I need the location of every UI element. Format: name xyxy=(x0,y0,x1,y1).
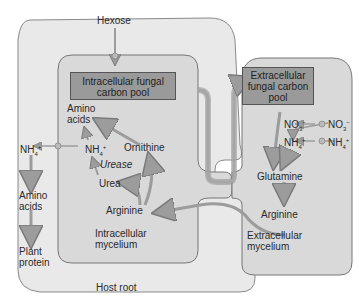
urease-label: Urease xyxy=(100,159,132,170)
amino-acids-intra-label: Amino acids xyxy=(67,103,95,125)
nh4-extra-outer-label: NH4+ xyxy=(328,135,349,153)
no3-outer-text: NO xyxy=(328,119,343,130)
extracellular-mycelium-label: Extracellular mycelium xyxy=(247,230,302,252)
intracellular-carbon-pool-box: Intracellular fungal carbon pool xyxy=(70,72,176,100)
extracellular-pool-line2: fungal carbon xyxy=(243,81,313,92)
no3-sup: − xyxy=(302,119,306,125)
intracellular-pool-line1: Intracellular fungal xyxy=(71,76,175,87)
intracellular-mycelium-label: Intracellular mycelium xyxy=(95,228,147,250)
nh4-host-label: NH4+ xyxy=(20,142,41,160)
plant-protein-line2: protein xyxy=(19,257,50,268)
amino-acids-host-label: Amino acids xyxy=(19,190,47,212)
nh4-sub: 4 xyxy=(342,144,345,150)
extracellular-mycelium-line1: Extracellular xyxy=(247,230,302,241)
glutamine-label: Glutamine xyxy=(257,171,303,182)
amino-acids-host-line1: Amino xyxy=(19,190,47,201)
no3-sup: − xyxy=(346,119,350,125)
amino-acids-intra-line1: Amino xyxy=(67,103,95,114)
no3-inner-label: NO3− xyxy=(284,117,306,135)
nh4-host-text: NH xyxy=(20,144,34,155)
nh4-sub: 4 xyxy=(298,144,301,150)
intracellular-pool-line2: carbon pool xyxy=(71,87,175,98)
amino-acids-intra-line2: acids xyxy=(67,114,95,125)
no3-sub: 3 xyxy=(343,126,346,132)
arginine-extra-label: Arginine xyxy=(261,209,298,220)
intracellular-mycelium-line2: mycelium xyxy=(95,239,147,250)
nh4-sub: 4 xyxy=(99,151,102,157)
ornithine-label: Ornithine xyxy=(124,142,165,153)
amino-acids-host-line2: acids xyxy=(19,201,47,212)
extracellular-pool-line1: Extracellular xyxy=(243,70,313,81)
nh4-sub: 4 xyxy=(34,151,37,157)
no3-sub: 3 xyxy=(299,126,302,132)
urea-label: Urea xyxy=(99,178,121,189)
nh4-extra-outer-text: NH xyxy=(328,137,342,148)
plant-protein-line1: Plant xyxy=(19,246,50,257)
host-root-label: Host root xyxy=(96,282,137,293)
no3-outer-label: NO3− xyxy=(328,117,350,135)
plant-protein-label: Plant protein xyxy=(19,246,50,268)
no3-inner-text: NO xyxy=(284,119,299,130)
extracellular-carbon-pool-box: Extracellular fungal carbon pool xyxy=(242,67,314,105)
nh4-sup: + xyxy=(38,144,42,150)
nh4-intra-label: NH4+ xyxy=(85,142,106,160)
hexose-label: Hexose xyxy=(97,15,131,26)
nh4-intra-text: NH xyxy=(85,144,99,155)
nh4-sup: + xyxy=(302,137,306,143)
nh4-sup: + xyxy=(346,137,350,143)
extracellular-mycelium-line2: mycelium xyxy=(247,241,302,252)
nh4-extra-inner-text: NH xyxy=(284,137,298,148)
diagram-canvas xyxy=(0,0,359,308)
intracellular-mycelium-line1: Intracellular xyxy=(95,228,147,239)
arginine-intra-label: Arginine xyxy=(106,205,143,216)
nh4-extra-inner-label: NH4+ xyxy=(284,135,305,153)
extracellular-pool-line3: pool xyxy=(243,92,313,103)
nh4-sup: + xyxy=(103,144,107,150)
